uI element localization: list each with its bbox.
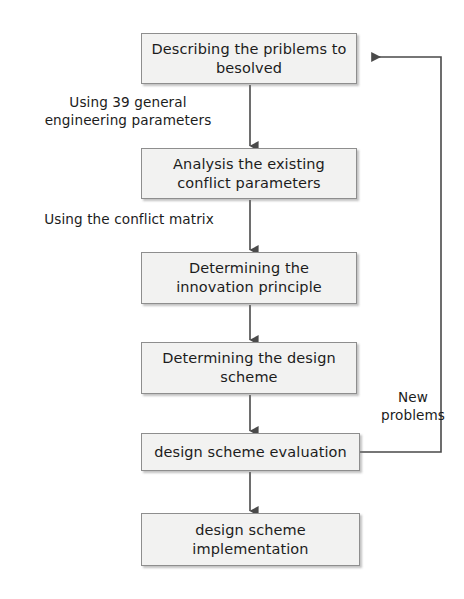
node-label: design scheme implementation [192,521,308,558]
node-label: Determining the innovation principle [176,259,322,296]
flowchart-canvas: Describing the priblems to besolved Anal… [0,0,464,599]
node-describing-problems[interactable]: Describing the priblems to besolved [141,33,357,84]
node-determining-innovation-principle[interactable]: Determining the innovation principle [141,252,357,304]
node-determining-design-scheme[interactable]: Determining the design scheme [141,342,357,394]
node-design-scheme-evaluation[interactable]: design scheme evaluation [141,433,360,471]
edge-label-39-engineering-parameters: Using 39 general engineering parameters [24,94,232,130]
edge-label-new-problems: New problems [370,389,456,425]
node-label: design scheme evaluation [154,443,347,462]
node-label: Analysis the existing conflict parameter… [173,155,325,192]
node-label: Determining the design scheme [162,349,335,386]
node-analysis-conflict-parameters[interactable]: Analysis the existing conflict parameter… [141,148,357,199]
edge-label-conflict-matrix: Using the conflict matrix [26,211,232,229]
node-label: Describing the priblems to besolved [151,40,346,77]
node-design-scheme-implementation[interactable]: design scheme implementation [141,513,360,566]
